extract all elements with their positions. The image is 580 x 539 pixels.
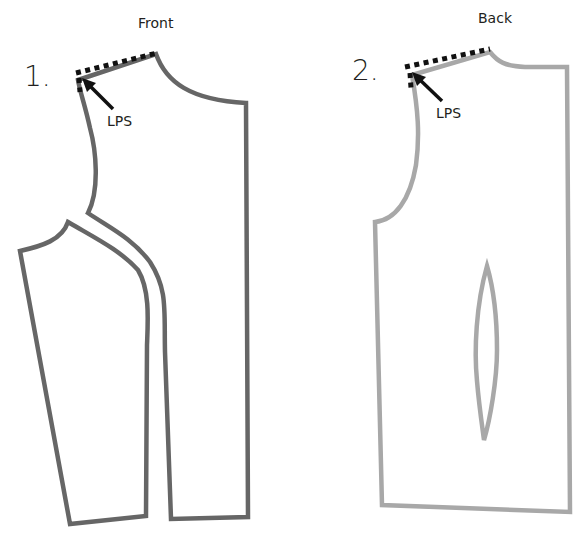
back-bodice-outline xyxy=(375,52,570,512)
back-title: Back xyxy=(478,10,513,26)
back-panel: Back 2. LPS xyxy=(352,10,570,512)
front-shoulder-dotted-line xyxy=(76,53,157,73)
back-number: 2. xyxy=(352,54,379,87)
back-arrow-icon xyxy=(418,78,442,101)
pattern-svg: Front 1. LPS Back 2. xyxy=(0,0,580,539)
pattern-diagram: Front 1. LPS Back 2. xyxy=(0,0,580,539)
back-lps-label: LPS xyxy=(436,105,461,121)
front-sleeve-outline xyxy=(20,222,148,524)
front-number: 1. xyxy=(24,60,51,93)
front-arrow-icon xyxy=(88,84,113,109)
front-bodice-outline xyxy=(78,54,248,519)
front-panel: Front 1. LPS xyxy=(20,15,248,524)
front-title: Front xyxy=(138,15,174,31)
front-lps-label: LPS xyxy=(107,113,132,129)
back-dart-outline xyxy=(476,266,497,440)
